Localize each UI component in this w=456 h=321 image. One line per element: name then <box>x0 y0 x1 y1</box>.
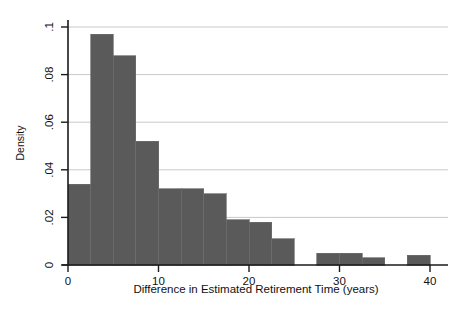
histogram-bar <box>340 253 363 265</box>
y-tick-label: .04 <box>43 161 55 178</box>
y-tick-label: .02 <box>43 209 55 225</box>
y-tick-label: .06 <box>43 114 55 130</box>
histogram-bar <box>181 189 204 265</box>
histogram-bar <box>113 56 136 265</box>
histogram-bar <box>226 220 249 265</box>
x-axis-title: Difference in Estimated Retirement Time … <box>133 283 378 295</box>
histogram-bar <box>91 34 114 265</box>
histogram-bar <box>249 222 272 265</box>
histogram-bar <box>68 184 91 265</box>
histogram-figure: 0.02.04.06.08.1 010203040 Difference in … <box>0 0 456 321</box>
histogram-bar <box>317 253 340 265</box>
histogram-bar <box>362 258 385 265</box>
y-tick-label: .08 <box>43 67 55 83</box>
histogram-bar <box>204 194 227 265</box>
y-tick-label: .1 <box>43 22 55 32</box>
x-tick-label: 0 <box>65 275 71 287</box>
histogram-bar <box>159 189 182 265</box>
y-tick-label: 0 <box>43 262 55 268</box>
histogram-plot: 0.02.04.06.08.1 010203040 Difference in … <box>0 0 456 321</box>
histogram-bar <box>407 255 430 265</box>
y-axis-title: Density <box>14 125 26 161</box>
histogram-bar <box>272 239 295 265</box>
x-tick-label: 40 <box>424 275 437 287</box>
histogram-bar <box>136 141 159 265</box>
